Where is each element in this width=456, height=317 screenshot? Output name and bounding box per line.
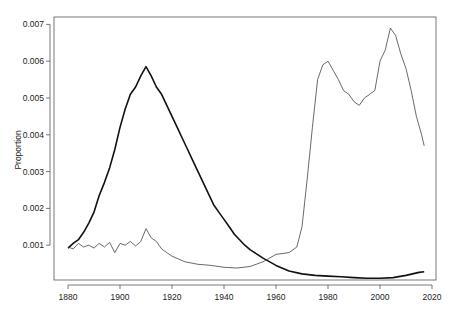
x-tick-label: 1980 — [319, 292, 338, 302]
x-tick-label: 1960 — [267, 292, 286, 302]
y-axis: 0.0010.0020.0030.0040.0050.0060.007 — [23, 19, 50, 250]
y-tick-label: 0.007 — [23, 19, 45, 29]
line-chart: 0.0010.0020.0030.0040.0050.0060.007 1880… — [0, 0, 456, 317]
thick-series-line — [68, 67, 424, 279]
x-tick-label: 2000 — [371, 292, 390, 302]
x-tick-label: 1920 — [163, 292, 182, 302]
x-tick-label: 1940 — [215, 292, 234, 302]
y-axis-title: Proportion — [13, 130, 23, 169]
y-tick-label: 0.006 — [23, 56, 45, 66]
plot-frame — [54, 17, 436, 280]
y-tick-label: 0.005 — [23, 93, 45, 103]
thin-series-line — [68, 28, 424, 268]
y-tick-label: 0.003 — [23, 167, 45, 177]
x-axis: 18801900192019401960198020002020 — [59, 285, 442, 302]
x-tick-label: 1900 — [111, 292, 130, 302]
x-tick-label: 2020 — [423, 292, 442, 302]
y-tick-label: 0.004 — [23, 130, 45, 140]
y-tick-label: 0.001 — [23, 240, 45, 250]
x-tick-label: 1880 — [59, 292, 78, 302]
series-layer — [68, 28, 424, 278]
y-tick-label: 0.002 — [23, 203, 45, 213]
